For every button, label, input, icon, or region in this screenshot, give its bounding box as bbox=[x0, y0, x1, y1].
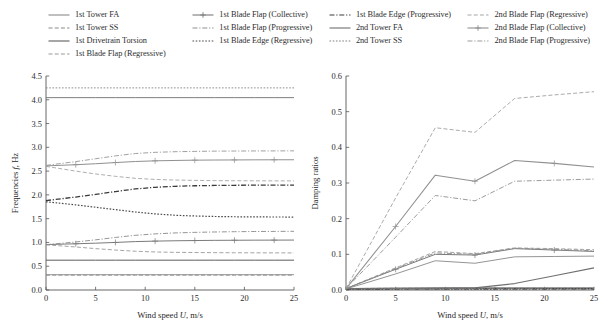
series-marker bbox=[472, 178, 478, 184]
damping-ratios-plot: 0.00.10.20.30.40.50.60510152025Wind spee… bbox=[306, 68, 606, 320]
x-axis-title: Wind speed U, m/s bbox=[437, 310, 503, 320]
legend-column-1: 1st Blade Flap (Collective)1st Blade Fla… bbox=[192, 8, 329, 48]
y-tick-label: 4.0 bbox=[32, 96, 42, 105]
legend-entry[interactable]: 2nd Blade Flap (Collective) bbox=[467, 21, 604, 34]
legend-line-swatch bbox=[192, 10, 214, 20]
y-tick-label: 0.1 bbox=[332, 250, 342, 259]
y-tick-label: 0.0 bbox=[32, 286, 42, 295]
legend-label: 2nd Tower FA bbox=[356, 23, 403, 33]
legend-entry[interactable]: 1st Blade Edge (Progressive) bbox=[329, 8, 468, 21]
figure-container: 1st Tower FA1st Tower SS1st Drivetrain T… bbox=[0, 0, 611, 331]
legend-label: 1st Blade Edge (Regressive) bbox=[219, 36, 312, 46]
series-line bbox=[346, 179, 594, 288]
legend-entry[interactable]: 1st Blade Flap (Collective) bbox=[192, 8, 329, 21]
chart-legend: 1st Tower FA1st Tower SS1st Drivetrain T… bbox=[48, 8, 604, 64]
series-line bbox=[46, 166, 294, 181]
legend-label: 1st Blade Flap (Regressive) bbox=[75, 49, 166, 59]
series-marker bbox=[192, 238, 198, 244]
x-tick-label: 15 bbox=[491, 294, 499, 303]
legend-entry[interactable]: 1st Drivetrain Torsion bbox=[48, 34, 192, 47]
series-marker bbox=[271, 157, 277, 163]
legend-line-swatch bbox=[192, 23, 214, 33]
series-line bbox=[46, 245, 294, 253]
legend-entry[interactable]: 1st Blade Edge (Regressive) bbox=[192, 34, 329, 47]
legend-line-swatch bbox=[192, 36, 214, 46]
legend-entry[interactable]: 1st Blade Flap (Progressive) bbox=[192, 21, 329, 34]
y-tick-label: 3.0 bbox=[32, 143, 42, 152]
series-line bbox=[46, 231, 294, 244]
legend-entry[interactable]: 1st Blade Flap (Regressive) bbox=[48, 48, 192, 61]
legend-label: 2nd Blade Flap (Progressive) bbox=[494, 36, 590, 46]
series-line bbox=[46, 160, 294, 166]
x-tick-label: 0 bbox=[44, 294, 48, 303]
y-tick-label: 1.5 bbox=[32, 215, 42, 224]
y-tick-label: 0.2 bbox=[332, 215, 342, 224]
x-tick-label: 10 bbox=[441, 294, 449, 303]
y-tick-label: 2.0 bbox=[32, 191, 42, 200]
x-tick-label: 20 bbox=[540, 294, 548, 303]
y-tick-label: 0.5 bbox=[332, 108, 342, 117]
y-tick-label: 4.5 bbox=[32, 72, 42, 81]
legend-line-swatch bbox=[329, 36, 351, 46]
x-tick-label: 5 bbox=[394, 294, 398, 303]
legend-label: 1st Tower SS bbox=[75, 23, 118, 33]
y-axis-title: Damping ratios bbox=[310, 156, 320, 210]
series-line bbox=[346, 256, 594, 289]
x-tick-label: 10 bbox=[141, 294, 149, 303]
legend-entry[interactable]: 2nd Tower FA bbox=[329, 21, 468, 34]
series-line bbox=[46, 185, 294, 201]
legend-line-swatch bbox=[467, 36, 489, 46]
series-line bbox=[346, 92, 594, 289]
legend-label: 1st Drivetrain Torsion bbox=[75, 36, 147, 46]
series-marker bbox=[152, 238, 158, 244]
legend-label: 1st Blade Flap (Collective) bbox=[219, 10, 307, 20]
series-marker bbox=[192, 157, 198, 163]
series-marker bbox=[231, 157, 237, 163]
series-marker bbox=[112, 239, 118, 245]
x-axis-title: Wind speed U, m/s bbox=[137, 310, 203, 320]
x-tick-label: 20 bbox=[240, 294, 248, 303]
legend-line-swatch bbox=[48, 10, 70, 20]
legend-entry[interactable]: 1st Tower SS bbox=[48, 21, 192, 34]
series-marker bbox=[551, 160, 557, 166]
legend-line-swatch bbox=[329, 10, 351, 20]
series-line bbox=[46, 240, 294, 245]
legend-line-swatch bbox=[467, 10, 489, 20]
legend-entry[interactable]: 2nd Blade Flap (Progressive) bbox=[467, 34, 604, 47]
y-tick-label: 0.6 bbox=[332, 72, 342, 81]
legend-label: 2nd Blade Flap (Regressive) bbox=[494, 10, 587, 20]
y-tick-label: 3.5 bbox=[32, 120, 42, 129]
frequencies-plot: 0.00.51.01.52.02.53.03.54.04.50510152025… bbox=[8, 68, 304, 320]
series-line bbox=[46, 151, 294, 166]
y-tick-label: 0.3 bbox=[332, 179, 342, 188]
series-marker bbox=[73, 162, 79, 168]
x-tick-label: 5 bbox=[94, 294, 98, 303]
legend-line-swatch bbox=[48, 23, 70, 33]
series-marker bbox=[551, 247, 557, 253]
y-tick-label: 0.5 bbox=[32, 262, 42, 271]
legend-entry[interactable]: 2nd Blade Flap (Regressive) bbox=[467, 8, 604, 21]
y-tick-label: 0.4 bbox=[332, 143, 343, 152]
series-line bbox=[346, 248, 594, 288]
legend-label: 2nd Tower SS bbox=[356, 36, 402, 46]
legend-column-0: 1st Tower FA1st Tower SS1st Drivetrain T… bbox=[48, 8, 192, 61]
legend-label: 1st Blade Edge (Progressive) bbox=[356, 10, 451, 20]
series-marker bbox=[112, 160, 118, 166]
series-marker bbox=[152, 158, 158, 164]
x-tick-label: 25 bbox=[290, 294, 298, 303]
legend-entry[interactable]: 2nd Tower SS bbox=[329, 34, 468, 47]
y-axis-title: Frequencies f, Hz bbox=[10, 153, 20, 214]
legend-entry[interactable]: 1st Tower FA bbox=[48, 8, 192, 21]
y-tick-label: 2.5 bbox=[32, 167, 42, 176]
series-line bbox=[46, 202, 294, 217]
legend-line-swatch bbox=[48, 49, 70, 59]
x-tick-label: 0 bbox=[344, 294, 348, 303]
series-marker bbox=[231, 237, 237, 243]
series-marker bbox=[271, 237, 277, 243]
x-tick-label: 25 bbox=[590, 294, 598, 303]
legend-label: 1st Tower FA bbox=[75, 10, 119, 20]
legend-line-swatch bbox=[467, 23, 489, 33]
y-tick-label: 0.0 bbox=[332, 286, 342, 295]
legend-line-swatch bbox=[329, 23, 351, 33]
y-tick-label: 1.0 bbox=[32, 238, 42, 247]
